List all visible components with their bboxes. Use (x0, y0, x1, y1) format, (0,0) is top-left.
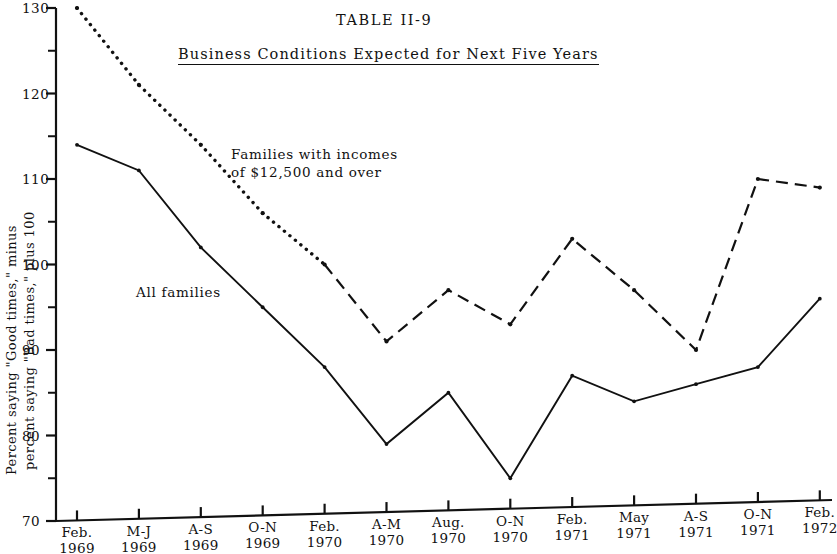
data-point-marker (694, 348, 698, 352)
x-tick-label-year: 1971 (544, 527, 600, 543)
data-point-marker (385, 442, 389, 446)
x-tick-label-year: 1972 (792, 520, 837, 536)
data-point-marker (261, 211, 265, 215)
x-tick-label-year: 1971 (730, 522, 786, 538)
y-axis-tick-label: 120 (22, 86, 49, 102)
y-axis-tick-label: 100 (22, 257, 49, 273)
y-axis-tick-label: 130 (22, 0, 49, 16)
data-point-marker (75, 6, 79, 10)
x-tick-label-year: 1970 (482, 529, 538, 545)
chart-axes (46, 8, 832, 521)
x-axis-tick-label: O-N1969 (235, 519, 291, 551)
data-point-marker (756, 365, 760, 369)
data-point-marker (137, 83, 141, 87)
x-tick-label-year: 1971 (606, 525, 662, 541)
x-axis-tick-label: A-S1971 (668, 508, 724, 540)
x-tick-label-period: Feb. (792, 504, 837, 520)
data-point-marker (199, 143, 203, 147)
x-axis-tick-label: A-S1969 (173, 521, 229, 553)
x-tick-label-period: Feb. (544, 511, 600, 527)
data-point-marker (137, 169, 141, 173)
x-axis-tick-label: O-N1971 (730, 506, 786, 538)
data-point-marker (261, 305, 265, 309)
x-tick-label-period: O-N (482, 513, 538, 529)
data-point-marker (632, 288, 636, 292)
chart-plot-area (0, 0, 837, 554)
x-axis-tick-label: Feb.1972 (792, 504, 837, 536)
y-axis-tick-label: 90 (22, 342, 40, 358)
x-tick-label-year: 1970 (359, 532, 415, 548)
x-tick-label-year: 1969 (235, 535, 291, 551)
data-point-marker (818, 185, 822, 189)
data-point-marker (75, 143, 79, 147)
x-tick-label-period: Aug. (420, 514, 476, 530)
x-axis-tick-label: Aug.1970 (420, 514, 476, 546)
y-axis-tick-label: 80 (22, 428, 40, 444)
x-tick-label-period: May (606, 509, 662, 525)
x-axis-tick-label: Feb.1969 (49, 524, 105, 554)
series-line-high-income-dotted (77, 8, 325, 265)
x-tick-label-period: A-S (668, 508, 724, 524)
chart-series-group (75, 6, 822, 480)
chart-figure: TABLE II-9 Business Conditions Expected … (0, 0, 837, 554)
x-tick-label-year: 1971 (668, 524, 724, 540)
data-point-marker (323, 365, 327, 369)
x-axis-tick-label: Feb.1971 (544, 511, 600, 543)
x-axis-tick-label: A-M1970 (359, 516, 415, 548)
x-axis-tick-label: O-N1970 (482, 513, 538, 545)
data-point-marker (446, 288, 450, 292)
data-point-marker (570, 374, 574, 378)
data-point-marker (447, 391, 451, 395)
x-axis-tick-label: M-J1969 (111, 523, 167, 554)
x-tick-label-year: 1970 (420, 530, 476, 546)
x-tick-label-period: Feb. (297, 518, 353, 534)
x-tick-label-year: 1969 (49, 540, 105, 554)
data-point-marker (632, 399, 636, 403)
x-tick-label-year: 1969 (111, 539, 167, 554)
x-tick-label-year: 1969 (173, 537, 229, 553)
series-line-all-families (77, 145, 820, 478)
x-tick-label-period: M-J (111, 523, 167, 539)
data-point-marker (508, 322, 512, 326)
x-tick-label-period: A-S (173, 521, 229, 537)
x-tick-label-period: A-M (359, 516, 415, 532)
x-axis-tick-label: Feb.1970 (297, 518, 353, 550)
data-point-marker (570, 237, 574, 241)
series-line-high-income-dashed (325, 179, 820, 350)
data-point-marker (508, 476, 512, 480)
x-tick-label-period: O-N (730, 506, 786, 522)
data-point-marker (323, 262, 327, 266)
data-point-marker (694, 382, 698, 386)
y-axis-tick-label: 70 (22, 513, 40, 529)
x-axis-tick-label: May1971 (606, 509, 662, 541)
data-point-marker (756, 177, 760, 181)
x-tick-label-period: Feb. (49, 524, 105, 540)
data-point-marker (818, 297, 822, 301)
data-point-marker (384, 339, 388, 343)
x-tick-label-period: O-N (235, 519, 291, 535)
x-tick-label-year: 1970 (297, 534, 353, 550)
data-point-marker (199, 246, 203, 250)
y-axis-tick-label: 110 (22, 171, 49, 187)
